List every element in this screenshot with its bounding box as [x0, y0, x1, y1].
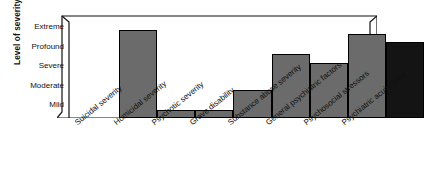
bar-chart: Level of severity ExtremeProfoundSevereM…	[0, 0, 427, 181]
bar-series	[119, 20, 424, 118]
bar-column	[386, 20, 424, 118]
frame-depth-edge-left	[62, 16, 69, 118]
